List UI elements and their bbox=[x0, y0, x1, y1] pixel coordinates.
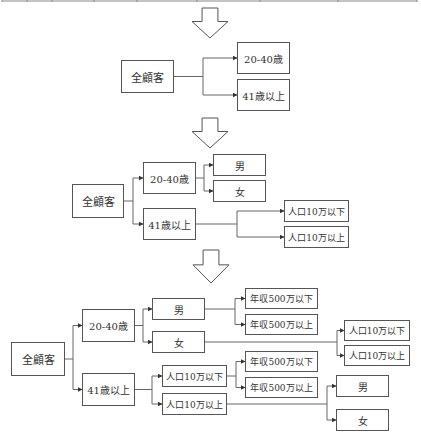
node-label: 20-40歳 bbox=[244, 51, 283, 66]
node-d3-pop-under: 人口10万以下 bbox=[162, 365, 227, 387]
node-label: 年収500万以下 bbox=[250, 355, 312, 368]
node-d1-age-20-40: 20-40歳 bbox=[237, 42, 290, 74]
node-label: 人口10万以上 bbox=[288, 231, 344, 244]
node-label: 男 bbox=[358, 379, 368, 394]
node-label: 人口10万以上 bbox=[349, 349, 405, 362]
node-d2-male: 男 bbox=[213, 154, 266, 176]
node-d2-pop-under: 人口10万以下 bbox=[284, 200, 349, 222]
node-d2-all: 全顧客 bbox=[72, 184, 124, 218]
node-d3-all: 全顧客 bbox=[11, 342, 65, 376]
node-label: 41歳以上 bbox=[87, 382, 130, 397]
node-d2-age-20-40: 20-40歳 bbox=[143, 162, 196, 194]
node-label: 年収500万以上 bbox=[250, 318, 312, 331]
node-label: 女 bbox=[358, 413, 368, 428]
node-d3-age-20-40: 20-40歳 bbox=[82, 309, 135, 342]
node-d3-female-pop-under: 人口10万以下 bbox=[344, 320, 410, 341]
node-d2-pop-over: 人口10万以上 bbox=[284, 226, 349, 248]
node-d2-female: 女 bbox=[213, 180, 266, 202]
down-arrow-icon bbox=[193, 250, 229, 283]
node-label: 全顧客 bbox=[22, 351, 55, 367]
node-d3-pop-over: 人口10万以上 bbox=[162, 393, 227, 415]
node-label: 人口10万以下 bbox=[349, 324, 405, 337]
node-d3-male: 男 bbox=[152, 298, 205, 320]
node-label: 年収500万以下 bbox=[250, 292, 312, 305]
node-label: 41歳以上 bbox=[242, 88, 285, 103]
node-d3-female-pop-over: 人口10万以上 bbox=[344, 345, 410, 366]
node-d3-age-41plus: 41歳以上 bbox=[82, 373, 135, 406]
node-label: 全顧客 bbox=[131, 69, 164, 85]
transition-arrows bbox=[192, 8, 229, 283]
node-label: 年収500万以上 bbox=[250, 381, 312, 394]
node-d1-age-41plus: 41歳以上 bbox=[237, 79, 290, 111]
node-label: 全顧客 bbox=[82, 193, 115, 209]
node-label: 20-40歳 bbox=[89, 318, 128, 333]
down-arrow-icon bbox=[192, 8, 228, 38]
node-d3-female: 女 bbox=[152, 331, 205, 353]
node-label: 男 bbox=[174, 302, 184, 317]
node-label: 41歳以上 bbox=[148, 217, 191, 232]
node-d3-pop-under-income-over: 年収500万以上 bbox=[245, 377, 318, 398]
node-d3-pop-over-female: 女 bbox=[336, 409, 389, 431]
down-arrow-icon bbox=[192, 118, 228, 148]
node-d3-male-income-over: 年収500万以上 bbox=[245, 314, 318, 335]
node-label: 女 bbox=[174, 335, 184, 350]
node-d3-pop-over-male: 男 bbox=[336, 375, 389, 397]
node-d1-all: 全顧客 bbox=[121, 60, 174, 93]
node-label: 男 bbox=[235, 158, 245, 173]
node-d3-male-income-under: 年収500万以下 bbox=[245, 288, 318, 309]
node-label: 人口10万以上 bbox=[166, 398, 222, 411]
node-d3-pop-under-income-under: 年収500万以下 bbox=[245, 351, 318, 372]
node-label: 20-40歳 bbox=[150, 171, 189, 186]
top-table-border bbox=[2, 0, 417, 2]
node-label: 人口10万以下 bbox=[288, 205, 344, 218]
node-label: 人口10万以下 bbox=[166, 370, 222, 383]
node-d2-age-41plus: 41歳以上 bbox=[143, 208, 196, 240]
node-label: 女 bbox=[235, 184, 245, 199]
